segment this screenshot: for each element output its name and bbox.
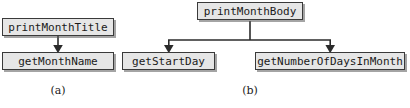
panel-caption-b: (b)	[220, 84, 280, 97]
node-print-month-body[interactable]: printMonthBody	[197, 2, 303, 20]
edge-print-month-body-trunk	[168, 21, 331, 40]
panel-caption-a: (a)	[28, 84, 88, 97]
figure-canvas: printMonthTitle getMonthName (a) printMo…	[0, 0, 410, 108]
node-get-month-name[interactable]: getMonthName	[2, 52, 114, 70]
node-print-month-title[interactable]: printMonthTitle	[2, 18, 114, 36]
node-get-start-day[interactable]: getStartDay	[122, 52, 215, 70]
node-get-number-of-days-in-month[interactable]: getNumberOfDaysInMonth	[255, 52, 405, 70]
